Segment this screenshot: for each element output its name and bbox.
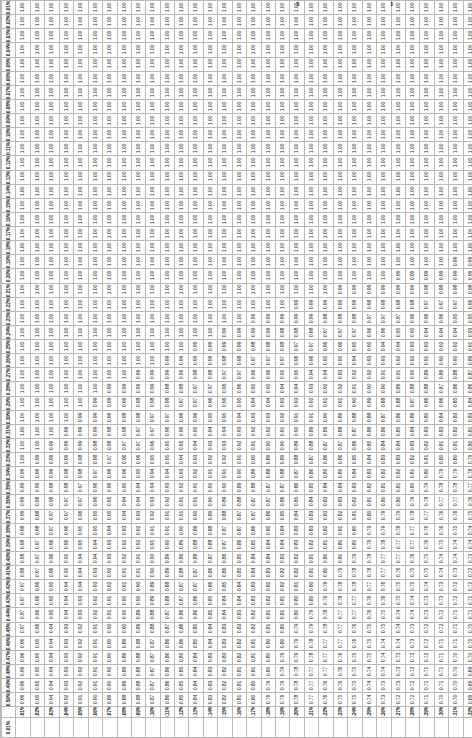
data-cell[interactable]: 0.97 <box>203 382 217 396</box>
data-cell[interactable]: 1.00 <box>117 142 131 156</box>
data-cell[interactable]: 1.00 <box>131 142 145 156</box>
data-cell[interactable]: 1.00 <box>74 1 88 15</box>
data-cell[interactable]: 0.83 <box>362 467 376 481</box>
data-cell[interactable]: 0.82 <box>362 481 376 495</box>
data-cell[interactable]: 0.94 <box>117 495 131 509</box>
data-cell[interactable]: 1.00 <box>103 114 117 128</box>
data-cell[interactable]: 0.99 <box>348 283 362 297</box>
data-cell[interactable]: 1.00 <box>377 85 391 99</box>
data-cell[interactable]: 0.83 <box>232 608 246 622</box>
data-cell[interactable]: 0.91 <box>146 537 160 551</box>
data-cell[interactable]: 1.00 <box>30 212 44 226</box>
column-header-cell[interactable]: 0.05% <box>74 707 88 718</box>
data-cell[interactable]: 0.96 <box>218 382 232 396</box>
data-cell[interactable]: 0.86 <box>247 523 261 537</box>
data-cell[interactable]: 0.90 <box>434 354 448 368</box>
data-cell[interactable]: 1.00 <box>420 156 434 170</box>
data-cell[interactable]: 1.00 <box>16 99 30 113</box>
table-row[interactable]: 0.08%1.001.001.001.001.001.001.001.001.0… <box>1 99 472 113</box>
data-cell[interactable]: 0.87 <box>405 396 419 410</box>
data-cell[interactable]: 0.99 <box>290 297 304 311</box>
data-cell[interactable]: 0.96 <box>333 340 347 354</box>
data-cell[interactable]: 0.81 <box>319 537 333 551</box>
data-cell[interactable]: 0.77 <box>348 608 362 622</box>
data-cell[interactable]: 1.00 <box>88 114 102 128</box>
data-cell[interactable]: 1.00 <box>88 283 102 297</box>
data-cell[interactable]: 1.00 <box>59 410 73 424</box>
data-cell[interactable]: 0.74 <box>377 664 391 678</box>
data-cell[interactable]: 1.00 <box>45 241 59 255</box>
data-cell[interactable]: 0.75 <box>405 566 419 580</box>
data-cell[interactable]: 0.88 <box>348 410 362 424</box>
data-cell[interactable]: 1.00 <box>247 85 261 99</box>
row-header-cell[interactable]: 0.21% <box>2 283 16 297</box>
data-cell[interactable]: 1.00 <box>117 368 131 382</box>
data-cell[interactable]: 1.00 <box>362 269 376 283</box>
data-cell[interactable]: 1.00 <box>261 283 275 297</box>
data-cell[interactable]: 0.93 <box>88 580 102 594</box>
data-cell[interactable]: 0.75 <box>449 523 463 537</box>
data-cell[interactable]: 0.95 <box>160 438 174 452</box>
data-cell[interactable]: 1.00 <box>45 269 59 283</box>
data-cell[interactable]: 1.00 <box>189 212 203 226</box>
data-cell[interactable]: 1.00 <box>74 114 88 128</box>
data-cell[interactable]: 1.00 <box>203 114 217 128</box>
data-cell[interactable]: 1.00 <box>405 85 419 99</box>
data-cell[interactable]: 1.00 <box>420 57 434 71</box>
data-cell[interactable]: 1.00 <box>463 43 472 57</box>
data-cell[interactable]: 0.75 <box>420 566 434 580</box>
data-cell[interactable]: 1.00 <box>160 184 174 198</box>
data-cell[interactable]: 0.94 <box>319 368 333 382</box>
data-cell[interactable]: 0.76 <box>405 551 419 565</box>
data-cell[interactable]: 1.00 <box>232 283 246 297</box>
data-cell[interactable]: 0.84 <box>218 594 232 608</box>
data-cell[interactable]: 1.00 <box>319 29 333 43</box>
data-cell[interactable]: 0.84 <box>189 650 203 664</box>
table-row[interactable]: 0.17%1.001.001.001.001.001.001.001.001.0… <box>1 227 472 241</box>
data-cell[interactable]: 0.84 <box>333 481 347 495</box>
data-cell[interactable]: 0.86 <box>174 608 188 622</box>
data-cell[interactable]: 0.99 <box>160 368 174 382</box>
data-cell[interactable]: 0.95 <box>333 354 347 368</box>
data-cell[interactable]: 1.00 <box>189 142 203 156</box>
data-cell[interactable]: 0.90 <box>117 594 131 608</box>
data-cell[interactable]: 0.98 <box>59 481 73 495</box>
data-cell[interactable]: 1.00 <box>146 297 160 311</box>
data-cell[interactable]: 1.00 <box>16 184 30 198</box>
data-cell[interactable]: 1.00 <box>30 15 44 29</box>
data-cell[interactable]: 0.89 <box>261 453 275 467</box>
data-cell[interactable]: 0.87 <box>333 438 347 452</box>
data-cell[interactable]: 0.77 <box>319 636 333 650</box>
data-cell[interactable]: 0.87 <box>189 566 203 580</box>
data-cell[interactable]: 1.00 <box>117 29 131 43</box>
data-cell[interactable]: 0.83 <box>463 410 472 424</box>
data-cell[interactable]: 0.73 <box>391 679 405 693</box>
data-cell[interactable]: 1.00 <box>160 340 174 354</box>
data-cell[interactable]: 0.98 <box>333 311 347 325</box>
data-cell[interactable]: 1.00 <box>247 1 261 15</box>
column-header-cell[interactable]: 0.24% <box>348 707 362 718</box>
data-cell[interactable]: 1.00 <box>174 325 188 339</box>
data-cell[interactable]: 0.72 <box>434 622 448 636</box>
data-cell[interactable]: 0.72 <box>463 580 472 594</box>
data-cell[interactable]: 0.92 <box>131 523 145 537</box>
data-cell[interactable]: 1.00 <box>319 15 333 29</box>
data-cell[interactable]: 0.81 <box>261 608 275 622</box>
data-cell[interactable]: 1.00 <box>16 15 30 29</box>
data-cell[interactable]: 1.00 <box>304 241 318 255</box>
data-cell[interactable]: 1.00 <box>348 99 362 113</box>
data-cell[interactable]: 0.90 <box>103 636 117 650</box>
data-cell[interactable]: 1.00 <box>333 99 347 113</box>
data-cell[interactable]: 1.00 <box>117 354 131 368</box>
data-cell[interactable]: 1.00 <box>131 269 145 283</box>
data-cell[interactable]: 1.00 <box>146 198 160 212</box>
data-cell[interactable]: 0.80 <box>405 481 419 495</box>
data-cell[interactable]: 1.00 <box>88 156 102 170</box>
data-cell[interactable]: 0.87 <box>160 622 174 636</box>
data-cell[interactable]: 0.96 <box>117 453 131 467</box>
data-cell[interactable]: 0.96 <box>247 368 261 382</box>
data-cell[interactable]: 1.00 <box>189 184 203 198</box>
data-cell[interactable]: 1.00 <box>449 71 463 85</box>
data-cell[interactable]: 1.00 <box>88 128 102 142</box>
table-row[interactable]: 0.29%1.001.001.001.001.000.990.990.990.9… <box>1 396 472 410</box>
